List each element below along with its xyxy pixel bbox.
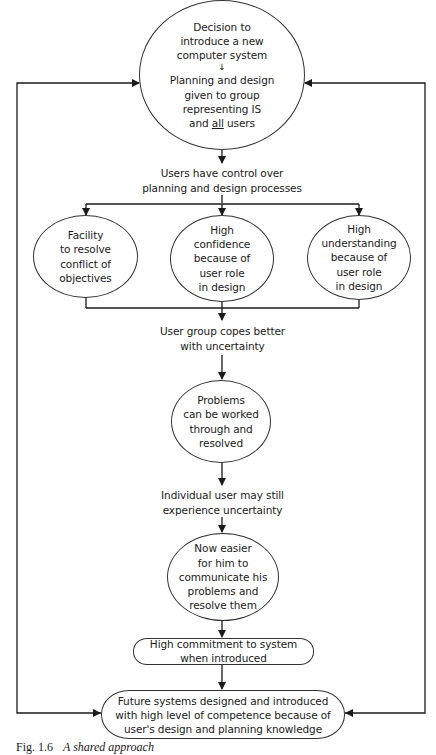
caption-number: Fig. 1.6 [16, 740, 53, 754]
planning-text: Planning and design given to group repre… [170, 73, 275, 130]
decision-text: Decision to introduce a new computer sys… [177, 20, 267, 63]
label-group-copes: User group copes better with uncertainty [150, 324, 295, 353]
node-high-confidence: High confidence because of user role in … [170, 215, 274, 302]
feedback-arrow-left [17, 83, 139, 713]
node-future-systems: Future systems designed and introduced w… [101, 690, 345, 739]
inner-arrow-icon: ↓ [218, 62, 225, 73]
node-high-commitment: High commitment to system when introduce… [133, 638, 314, 665]
node-problems: Problems can be worked through and resol… [171, 380, 271, 463]
caption-title: A shared approach [63, 740, 154, 754]
feedback-arrow-right [305, 83, 425, 713]
label-users-control: Users have control over planning and des… [140, 166, 304, 195]
node-facility: Facility to resolve conflict of objectiv… [33, 215, 138, 298]
all-emphasis: all [212, 117, 224, 129]
node-high-understanding: High understanding because of user role … [307, 215, 411, 300]
node-now-easier: Now easier for him to communicate his pr… [167, 533, 279, 621]
figure-caption: Fig. 1.6A shared approach [16, 740, 154, 755]
label-individual: Individual user may still experience unc… [150, 488, 295, 517]
node-decision-and-planning: Decision to introduce a new computer sys… [139, 0, 305, 150]
